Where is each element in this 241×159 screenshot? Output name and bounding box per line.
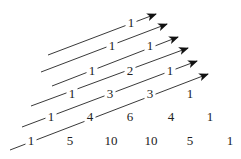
triangle-number: 2: [127, 63, 134, 78]
triangle-number: 3: [107, 86, 114, 101]
triangle-number: 10: [145, 133, 158, 148]
triangle-number: 1: [128, 15, 135, 30]
triangle-number: 5: [187, 133, 194, 148]
triangle-number: 1: [109, 38, 116, 53]
triangle-number: 1: [69, 86, 76, 101]
triangle-number: 4: [87, 109, 94, 124]
diagonal-arrows: [10, 14, 208, 150]
triangle-number: 1: [48, 109, 55, 124]
triangle-number: 10: [105, 133, 118, 148]
triangle-number: 1: [187, 86, 194, 101]
triangle-number: 1: [207, 109, 214, 124]
triangle-number: 1: [227, 133, 234, 148]
triangle-number: 1: [147, 38, 154, 53]
pascal-triangle-diagram: 11112113311464115101051: [0, 0, 241, 159]
triangle-numbers: 11112113311464115101051: [26, 15, 236, 148]
triangle-number: 3: [147, 86, 154, 101]
triangle-number: 5: [67, 133, 74, 148]
triangle-number: 1: [89, 63, 96, 78]
triangle-number: 1: [28, 133, 35, 148]
triangle-number: 6: [127, 109, 134, 124]
triangle-number: 1: [167, 63, 174, 78]
triangle-number: 4: [168, 109, 175, 124]
